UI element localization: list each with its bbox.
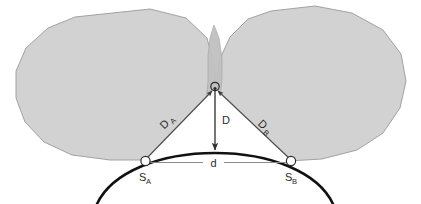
apex-marker-dot	[213, 87, 216, 90]
coverage-blob-right	[216, 6, 406, 161]
satellite-geometry-diagram: D A D B D d S A S B	[0, 0, 421, 204]
label-baseline-text: d	[210, 157, 216, 169]
label-baseline: d	[210, 157, 216, 169]
station-b-marker[interactable]	[286, 156, 295, 165]
label-station-b-subscript: B	[292, 177, 297, 186]
diagram-canvas: D A D B D d S A S B	[0, 0, 421, 204]
label-station-a-subscript: A	[146, 177, 151, 186]
label-station-b: S B	[285, 171, 297, 186]
coverage-blobs-group	[16, 6, 406, 161]
label-altitude-text: D	[222, 114, 230, 126]
label-station-a: S A	[139, 171, 151, 186]
label-altitude: D	[222, 114, 230, 126]
station-a-marker[interactable]	[141, 156, 150, 165]
coverage-blob-left	[16, 9, 216, 160]
